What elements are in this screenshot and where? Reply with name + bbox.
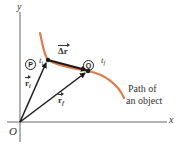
r-f-label: rf — [58, 96, 64, 106]
r-i-label: ri — [25, 79, 31, 89]
path-label-line2: an object — [126, 96, 162, 106]
point-p-label: P — [25, 54, 36, 70]
vector-delta-r — [48, 60, 86, 70]
point-q-label: Q — [83, 55, 94, 71]
vector-r-i — [20, 63, 46, 122]
object-path-curve — [40, 33, 124, 98]
point-p-time: ti — [39, 56, 43, 66]
x-axis-label: x — [169, 115, 173, 125]
point-p-dot — [46, 58, 50, 62]
point-q-symbol: Q — [83, 60, 94, 71]
delta-r-label: Δr — [58, 47, 68, 56]
path-label-line1: Path of — [128, 84, 157, 94]
y-axis-label: y — [17, 2, 21, 12]
diagram-graphics — [0, 0, 180, 144]
origin-label: O — [9, 126, 17, 137]
point-p-symbol: P — [25, 59, 36, 70]
point-q-time: tf — [101, 56, 105, 66]
displacement-diagram: y x O P ti Q tf Δr ri rf Path of an obje… — [0, 0, 180, 144]
